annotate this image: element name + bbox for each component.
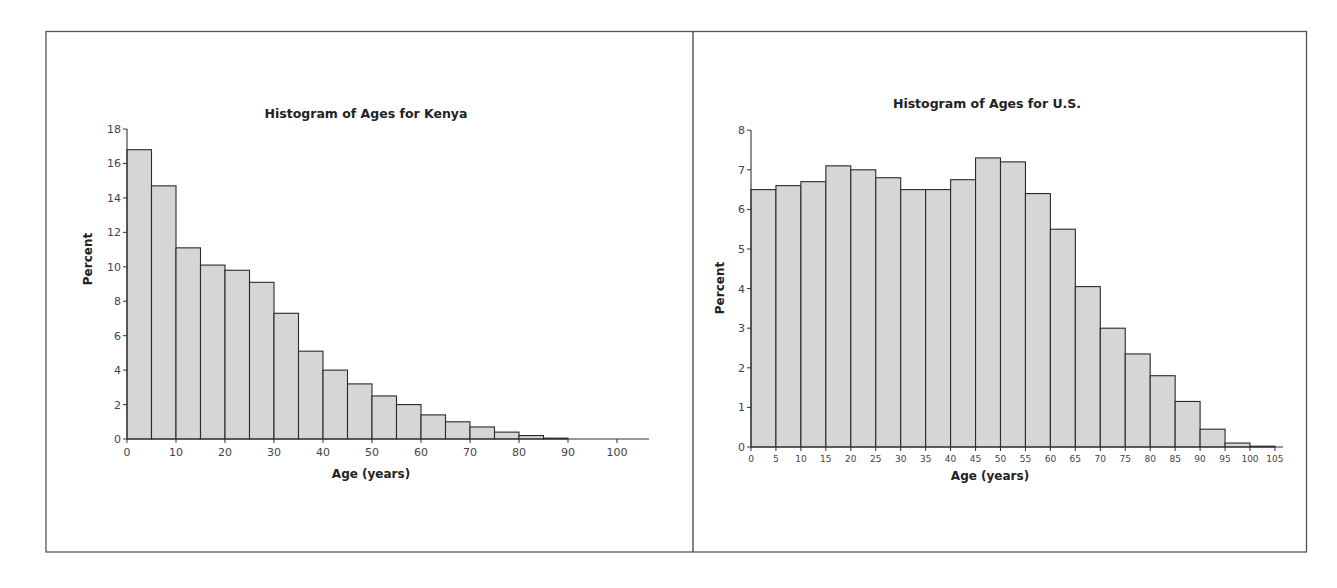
histogram-bar xyxy=(1150,376,1175,447)
histogram-bar xyxy=(951,180,976,447)
us-x-axis: 0510152025303540455055606570758085909510… xyxy=(748,447,1283,464)
y-tick-label: 2 xyxy=(738,362,745,375)
x-tick-label: 100 xyxy=(1241,454,1258,464)
us-chart-panel: Histogram of Ages for U.S. 012345678 051… xyxy=(713,96,1284,483)
histogram-bar xyxy=(926,190,951,447)
x-tick-label: 100 xyxy=(607,446,628,459)
histogram-bar xyxy=(1175,401,1200,447)
histogram-bar xyxy=(397,405,422,439)
x-tick-label: 35 xyxy=(920,454,931,464)
x-tick-label: 20 xyxy=(845,454,857,464)
histogram-bar xyxy=(372,396,397,439)
x-tick-label: 90 xyxy=(1194,454,1206,464)
histogram-bar xyxy=(1001,162,1026,447)
histogram-bar xyxy=(801,182,826,447)
kenya-x-axis: 0102030405060708090100 xyxy=(124,439,650,459)
histogram-bar xyxy=(1100,328,1125,447)
x-tick-label: 10 xyxy=(795,454,807,464)
x-tick-label: 30 xyxy=(895,454,907,464)
histogram-bar xyxy=(323,370,348,439)
y-tick-label: 12 xyxy=(107,226,121,239)
y-tick-label: 7 xyxy=(738,164,745,177)
histogram-bar xyxy=(421,415,446,439)
kenya-y-axis-label: Percent xyxy=(81,233,95,286)
histogram-bar xyxy=(1050,229,1075,447)
histogram-bar xyxy=(201,265,226,439)
x-tick-label: 90 xyxy=(561,446,575,459)
y-tick-label: 4 xyxy=(738,283,745,296)
y-tick-label: 4 xyxy=(114,364,121,377)
histogram-bar xyxy=(127,150,152,439)
kenya-chart-panel: Histogram of Ages for Kenya 024681012141… xyxy=(81,106,649,481)
histogram-bar xyxy=(1075,287,1100,447)
x-tick-label: 70 xyxy=(1095,454,1107,464)
x-tick-label: 80 xyxy=(1144,454,1156,464)
x-tick-label: 105 xyxy=(1266,454,1283,464)
kenya-x-axis-label: Age (years) xyxy=(332,467,410,481)
y-tick-label: 0 xyxy=(738,441,745,454)
kenya-bars xyxy=(127,150,568,439)
histogram-bar xyxy=(176,248,201,439)
x-tick-label: 50 xyxy=(365,446,379,459)
x-tick-label: 85 xyxy=(1169,454,1180,464)
y-tick-label: 6 xyxy=(114,330,121,343)
y-tick-label: 6 xyxy=(738,203,745,216)
x-tick-label: 0 xyxy=(124,446,131,459)
x-tick-label: 40 xyxy=(316,446,330,459)
histogram-bar xyxy=(1200,429,1225,447)
x-tick-label: 25 xyxy=(870,454,881,464)
x-tick-label: 65 xyxy=(1070,454,1081,464)
histogram-bar xyxy=(1125,354,1150,447)
x-tick-label: 0 xyxy=(748,454,754,464)
histogram-bar xyxy=(274,313,299,439)
histogram-bar xyxy=(826,166,851,447)
x-tick-label: 30 xyxy=(267,446,281,459)
x-tick-label: 15 xyxy=(820,454,831,464)
us-y-axis: 012345678 xyxy=(738,124,751,454)
x-tick-label: 20 xyxy=(218,446,232,459)
kenya-chart-title: Histogram of Ages for Kenya xyxy=(265,106,468,121)
histogram-bar xyxy=(152,186,177,439)
x-tick-label: 40 xyxy=(945,454,957,464)
y-tick-label: 16 xyxy=(107,157,121,170)
histogram-bar xyxy=(495,432,520,439)
us-x-axis-label: Age (years) xyxy=(951,469,1029,483)
x-tick-label: 45 xyxy=(970,454,981,464)
histogram-bar xyxy=(876,178,901,447)
histogram-figure: Histogram of Ages for Kenya 024681012141… xyxy=(0,0,1337,588)
us-y-axis-label: Percent xyxy=(713,262,727,315)
x-tick-label: 75 xyxy=(1120,454,1131,464)
histogram-bar xyxy=(776,186,801,447)
histogram-bar xyxy=(225,270,250,439)
y-tick-label: 8 xyxy=(738,124,745,137)
histogram-bar xyxy=(250,282,275,439)
x-tick-label: 10 xyxy=(169,446,183,459)
histogram-bar xyxy=(470,427,495,439)
histogram-bar xyxy=(751,190,776,447)
us-bars xyxy=(751,158,1275,447)
y-tick-label: 18 xyxy=(107,123,121,136)
x-tick-label: 55 xyxy=(1020,454,1031,464)
y-tick-label: 1 xyxy=(738,401,745,414)
histogram-bar xyxy=(1025,194,1050,447)
x-tick-label: 5 xyxy=(773,454,779,464)
x-tick-label: 80 xyxy=(512,446,526,459)
histogram-bar xyxy=(446,422,471,439)
us-chart-title: Histogram of Ages for U.S. xyxy=(893,96,1081,111)
x-tick-label: 50 xyxy=(995,454,1007,464)
y-tick-label: 14 xyxy=(107,192,121,205)
x-tick-label: 95 xyxy=(1219,454,1230,464)
x-tick-label: 60 xyxy=(414,446,428,459)
y-tick-label: 0 xyxy=(114,433,121,446)
histogram-bar xyxy=(901,190,926,447)
histogram-bar xyxy=(976,158,1001,447)
y-tick-label: 5 xyxy=(738,243,745,256)
histogram-bar xyxy=(851,170,876,447)
y-tick-label: 3 xyxy=(738,322,745,335)
histogram-bar xyxy=(1225,443,1250,447)
y-tick-label: 10 xyxy=(107,261,121,274)
x-tick-label: 60 xyxy=(1045,454,1057,464)
y-tick-label: 8 xyxy=(114,295,121,308)
histogram-bar xyxy=(299,351,324,439)
y-tick-label: 2 xyxy=(114,399,121,412)
